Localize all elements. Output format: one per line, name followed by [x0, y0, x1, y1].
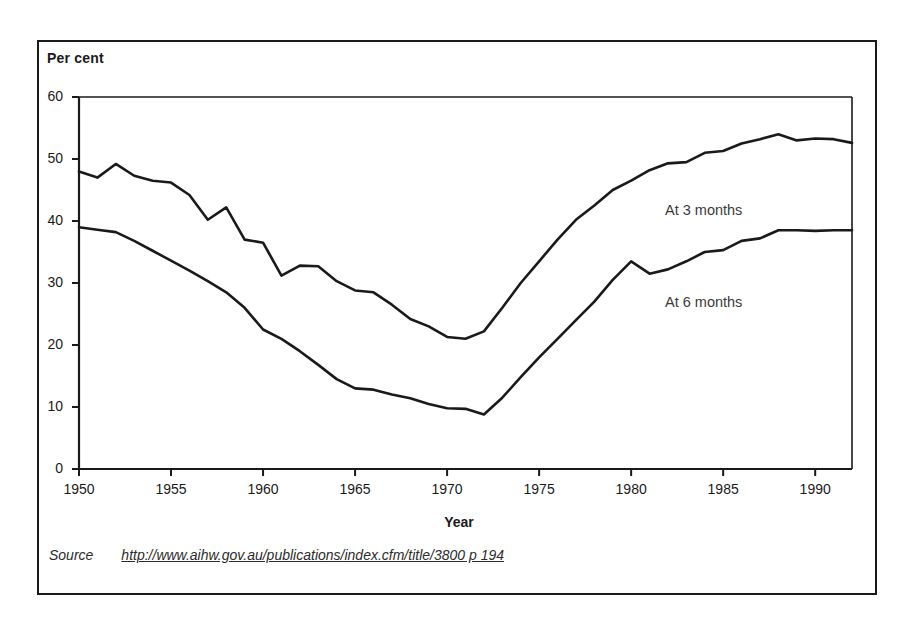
x-axis-tick-label: 1985 — [700, 481, 746, 497]
x-axis-tick-label: 1975 — [516, 481, 562, 497]
x-axis-tick-label: 1960 — [240, 481, 286, 497]
series-label-at-3-months: At 3 months — [665, 202, 742, 218]
y-axis-tick-label: 60 — [35, 88, 63, 104]
figure-frame: Per cent Year At 3 months At 6 months So… — [37, 40, 877, 595]
y-axis-tick-label: 10 — [35, 398, 63, 414]
y-axis-tick-label: 20 — [35, 336, 63, 352]
chart-plot-area: Per cent Year At 3 months At 6 months So… — [39, 42, 879, 597]
y-axis-tick-label: 30 — [35, 274, 63, 290]
x-axis-tick-label: 1990 — [792, 481, 838, 497]
x-axis-tick-label: 1980 — [608, 481, 654, 497]
x-axis-tick-label: 1950 — [56, 481, 102, 497]
source-label: Source — [49, 547, 93, 563]
y-axis-tick-label: 50 — [35, 150, 63, 166]
y-axis-tick-label: 40 — [35, 212, 63, 228]
source-row: Source http://www.aihw.gov.au/publicatio… — [49, 547, 869, 563]
x-axis-tick-label: 1970 — [424, 481, 470, 497]
y-axis-tick-label: 0 — [35, 460, 63, 476]
x-axis-tick-label: 1965 — [332, 481, 378, 497]
x-axis-tick-label: 1955 — [148, 481, 194, 497]
source-url-link[interactable]: http://www.aihw.gov.au/publications/inde… — [121, 547, 504, 563]
series-label-at-6-months: At 6 months — [665, 294, 742, 310]
data-series-line-at-6-months — [79, 227, 852, 414]
x-axis-title: Year — [39, 514, 879, 530]
